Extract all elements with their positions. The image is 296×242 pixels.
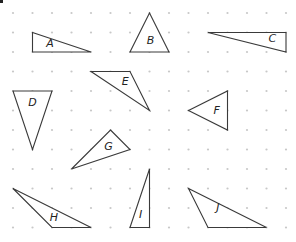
grid-dot — [168, 226, 170, 228]
grid-dot — [109, 187, 111, 189]
grid-dot — [207, 129, 209, 131]
grid-dot — [70, 148, 72, 150]
triangle-i: I — [130, 169, 150, 228]
grid-dot — [12, 207, 14, 209]
grid-dot — [246, 70, 248, 72]
grid-dot — [109, 12, 111, 14]
grid-dot — [187, 148, 189, 150]
grid-dot — [265, 187, 267, 189]
grid-dot — [31, 226, 33, 228]
triangle-c: C — [208, 32, 286, 52]
grid-dot — [109, 226, 111, 228]
grid-dot — [207, 90, 209, 92]
grid-dot — [70, 129, 72, 131]
grid-dot — [90, 129, 92, 131]
triangle-label: E — [122, 75, 129, 88]
grid-dot — [265, 129, 267, 131]
grid-dot — [12, 70, 14, 72]
grid-dot — [168, 168, 170, 170]
grid-dot — [31, 187, 33, 189]
grid-dot — [90, 12, 92, 14]
grid-dot — [51, 187, 53, 189]
grid-dot — [90, 31, 92, 33]
grid-dot — [12, 226, 14, 228]
grid-dot — [246, 109, 248, 111]
grid-dot — [148, 70, 150, 72]
grid-dot — [265, 207, 267, 209]
grid-dot — [207, 168, 209, 170]
triangle-shape — [189, 91, 228, 130]
grid-dot — [265, 12, 267, 14]
grid-dot — [51, 148, 53, 150]
triangle-shape — [91, 72, 150, 111]
grid-dot — [70, 109, 72, 111]
grid-dot — [70, 70, 72, 72]
grid-dot — [207, 51, 209, 53]
grid-dot — [51, 109, 53, 111]
grid-dot — [187, 129, 189, 131]
triangle-label: G — [104, 140, 113, 153]
triangle-b: B — [130, 13, 169, 52]
grid-dot — [12, 129, 14, 131]
grid-dot — [90, 207, 92, 209]
triangle-a: A — [33, 33, 92, 53]
grid-dot — [168, 207, 170, 209]
grid-dot — [90, 187, 92, 189]
triangle-label: A — [45, 37, 54, 50]
grid-dot — [226, 12, 228, 14]
grid-dot — [12, 31, 14, 33]
grid-dot — [226, 70, 228, 72]
triangle-label: H — [50, 211, 58, 224]
grid-dot — [285, 12, 287, 14]
grid-dot — [168, 109, 170, 111]
grid-dot — [246, 12, 248, 14]
grid-dot — [285, 129, 287, 131]
grid-dot — [90, 109, 92, 111]
grid-dot — [70, 187, 72, 189]
grid-dot — [109, 31, 111, 33]
grid-dot — [109, 109, 111, 111]
dot-grid-diagram: ABCDEFGHIJ — [0, 0, 296, 242]
grid-dot — [265, 90, 267, 92]
triangle-d: D — [13, 91, 52, 150]
grid-dot — [285, 226, 287, 228]
triangle-g: G — [72, 130, 131, 169]
grid-dot — [129, 207, 131, 209]
triangle-label: D — [28, 96, 36, 109]
grid-dot — [70, 207, 72, 209]
grid-dot — [187, 168, 189, 170]
grid-dot — [31, 168, 33, 170]
grid-dot — [226, 187, 228, 189]
grid-dot — [285, 187, 287, 189]
grid-dot — [187, 90, 189, 92]
grid-dot — [168, 12, 170, 14]
grid-dot — [285, 90, 287, 92]
grid-dot — [207, 148, 209, 150]
grid-dot — [51, 168, 53, 170]
grid-dot — [246, 168, 248, 170]
grid-dot — [187, 51, 189, 53]
grid-dot — [207, 70, 209, 72]
grid-dot — [90, 168, 92, 170]
triangle-label: C — [269, 32, 277, 45]
grid-dot — [109, 168, 111, 170]
grid-dot — [168, 187, 170, 189]
grid-dot — [168, 70, 170, 72]
grid-dot — [12, 148, 14, 150]
grid-dot — [31, 70, 33, 72]
grid-dot — [168, 148, 170, 150]
grid-dot — [265, 51, 267, 53]
triangle-label: B — [147, 34, 155, 47]
grid-dot — [246, 187, 248, 189]
grid-dot — [12, 109, 14, 111]
grid-dot — [12, 12, 14, 14]
grid-dot — [207, 187, 209, 189]
grid-dot — [187, 226, 189, 228]
grid-dot — [265, 109, 267, 111]
triangle-e: E — [91, 72, 150, 111]
grid-dot — [246, 51, 248, 53]
grid-dot — [129, 12, 131, 14]
grid-dot — [51, 70, 53, 72]
grid-dot — [226, 51, 228, 53]
grid-dot — [265, 148, 267, 150]
